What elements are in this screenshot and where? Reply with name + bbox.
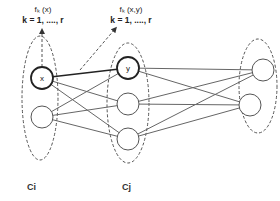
edge-cj3-ck2 — [128, 105, 250, 139]
edge-ci2-y — [42, 68, 128, 117]
node-ck2-circle — [239, 94, 261, 116]
node-y: y — [117, 57, 139, 79]
edge-y-ck1 — [128, 68, 263, 70]
cluster-label-cj: Cj — [122, 182, 131, 192]
fxy-annotation: fₖ (x,y) k = 1, ...., r — [103, 5, 159, 25]
node-cj2-circle — [117, 93, 139, 115]
node-cj3 — [117, 128, 139, 150]
node-cj3-circle — [117, 128, 139, 150]
edge-ci2-cj3 — [42, 117, 128, 139]
node-ck2 — [239, 94, 261, 116]
cluster-label-ci: Ci — [27, 182, 36, 192]
node-ck1-circle — [252, 59, 274, 81]
node-ci2-circle — [31, 106, 53, 128]
cluster-ci-boundary — [22, 36, 58, 160]
node-y-label: y — [126, 64, 130, 73]
edge-ci2-cj2 — [42, 104, 128, 117]
node-ci2 — [31, 106, 53, 128]
network-diagram: xy — [0, 0, 280, 201]
node-x: x — [31, 67, 53, 89]
fxy-range-label: k = 1, ...., r — [103, 15, 159, 25]
fxy-arrow — [80, 29, 115, 70]
fx-range-label: k = 1, ...., r — [20, 15, 66, 25]
node-ck1 — [252, 59, 274, 81]
edge-x-cj2 — [42, 78, 128, 104]
edge-x-cj3 — [42, 78, 128, 139]
node-x-label: x — [40, 74, 44, 83]
node-cj2 — [117, 93, 139, 115]
edge-x-y — [42, 68, 128, 78]
cluster-ck-boundary — [239, 39, 277, 133]
fx-annotation: fₖ (x) k = 1, ...., r — [20, 5, 66, 25]
fx-function-label: fₖ (x) — [20, 5, 66, 15]
edge-cj2-ck2 — [128, 104, 250, 105]
fxy-function-label: fₖ (x,y) — [103, 5, 159, 15]
